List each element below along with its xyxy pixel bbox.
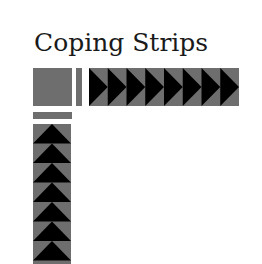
diagram-title: Coping Strips bbox=[34, 30, 208, 55]
vertical-triangle-strip bbox=[33, 124, 71, 264]
corner-square bbox=[33, 68, 72, 106]
horizontal-triangle-strip bbox=[89, 68, 239, 106]
vertical-bar bbox=[76, 68, 82, 106]
horizontal-bar bbox=[33, 112, 72, 119]
